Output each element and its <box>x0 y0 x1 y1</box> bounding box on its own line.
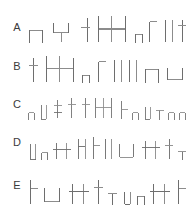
glyph-u-shape-up <box>166 66 187 84</box>
glyph-small-arch-3 <box>168 110 176 122</box>
glyph-strokes <box>94 94 115 122</box>
glyph-vertical-cross-bar <box>93 178 104 206</box>
glyph-u-shape-up <box>118 142 136 162</box>
glyph-strokes <box>114 58 123 84</box>
glyph-tee-left <box>119 98 128 122</box>
glyph-vertical-cross-bar <box>67 94 76 122</box>
glyph-corner-j-shape <box>122 190 133 206</box>
glyph-strokes <box>165 18 174 44</box>
glyph-small-arch-4 <box>179 110 187 122</box>
stimulus-row-d: D <box>0 124 189 164</box>
glyph-table-frame-2 <box>142 138 160 162</box>
glyph-strokes <box>80 16 91 44</box>
glyph-tee-left <box>91 134 101 162</box>
glyph-strokes <box>67 94 76 122</box>
glyph-strokes <box>28 56 39 84</box>
row-label-b: B <box>10 61 24 72</box>
glyph-strokes <box>177 150 187 162</box>
glyph-strokes <box>129 58 138 84</box>
glyph-strokes <box>107 192 118 206</box>
glyph-h-frame-wide <box>45 54 77 84</box>
row-label-a: A <box>10 22 24 33</box>
glyph-arch-n-shape <box>28 28 45 44</box>
glyph-h-frame-wide <box>94 94 115 122</box>
glyph-strokes <box>91 134 101 162</box>
glyph-strokes <box>53 140 71 162</box>
glyph-strokes <box>45 54 77 84</box>
glyph-corner-j-shape <box>28 142 38 162</box>
glyph-double-tee-up <box>52 20 73 44</box>
glyph-twin-verticals-2 <box>129 58 138 84</box>
glyph-strip <box>26 86 189 124</box>
glyph-strokes <box>53 96 62 122</box>
glyph-table-frame <box>69 182 89 206</box>
row-label-e: E <box>10 180 24 191</box>
glyph-strokes <box>97 14 129 44</box>
glyph-tee-up-small <box>107 192 118 206</box>
glyph-strokes <box>28 142 38 162</box>
glyph-strokes <box>81 94 90 122</box>
glyph-strokes <box>148 20 159 44</box>
glyph-strokes <box>150 182 170 206</box>
glyph-strokes <box>137 194 146 206</box>
row-label-c: C <box>10 99 24 110</box>
glyph-small-arch <box>135 32 144 44</box>
glyph-strokes <box>75 136 87 162</box>
glyph-corner-l-top <box>148 20 159 44</box>
glyph-strokes <box>41 150 49 162</box>
glyph-table-frame-2 <box>150 182 170 206</box>
glyph-vertical-cross-bar <box>164 136 174 162</box>
glyph-small-arch <box>137 194 146 206</box>
glyph-strip <box>26 166 189 208</box>
glyph-strokes <box>39 102 48 122</box>
glyph-small-arch <box>41 150 49 162</box>
glyph-strokes <box>178 18 187 44</box>
glyph-strokes <box>135 32 144 44</box>
glyph-strokes <box>43 186 63 206</box>
glyph-strip <box>26 124 189 164</box>
glyph-strokes <box>28 178 39 206</box>
glyph-strokes <box>93 178 104 206</box>
glyph-strokes <box>168 110 176 122</box>
stimulus-row-b: B <box>0 48 189 86</box>
glyph-strokes <box>69 182 89 206</box>
glyph-small-arch <box>82 72 91 84</box>
glyph-corner-j-shape <box>39 102 48 122</box>
glyph-strokes <box>118 142 136 162</box>
glyph-tee-left <box>28 178 39 206</box>
glyph-vertical-cross-bar <box>178 18 187 44</box>
glyph-twin-verticals <box>165 18 174 44</box>
glyph-corner-l-top <box>97 60 108 84</box>
glyph-tee-up-small <box>177 150 187 162</box>
glyph-strokes <box>164 136 174 162</box>
glyph-arch-n-shape <box>144 67 161 84</box>
stimulus-row-c: C <box>0 86 189 124</box>
glyph-strokes <box>52 20 73 44</box>
glyph-strokes <box>142 138 160 162</box>
glyph-strokes <box>97 60 108 84</box>
glyph-strokes <box>28 110 36 122</box>
glyph-strokes <box>179 110 187 122</box>
glyph-strokes <box>143 104 152 122</box>
glyph-tee-up <box>155 108 164 122</box>
glyph-twin-verticals <box>114 58 123 84</box>
glyph-strokes <box>144 67 161 84</box>
glyph-strokes <box>105 136 113 162</box>
glyph-small-arch <box>28 110 36 122</box>
glyph-vertical-double-bar <box>53 96 62 122</box>
glyph-strokes <box>155 108 164 122</box>
glyph-twin-verticals <box>105 136 113 162</box>
glyph-strip <box>26 48 189 86</box>
glyph-strokes <box>176 178 187 206</box>
glyph-strokes <box>28 28 45 44</box>
glyph-corner-j-shape-2 <box>143 104 152 122</box>
glyph-strokes <box>132 110 140 122</box>
glyph-u-shape-up <box>43 186 63 206</box>
glyph-strokes <box>82 72 91 84</box>
glyph-small-arch-2 <box>132 110 140 122</box>
glyph-strokes <box>119 98 128 122</box>
glyph-vertical-with-bar <box>80 16 91 44</box>
stimulus-row-a: A <box>0 8 189 46</box>
glyph-strip <box>26 8 189 46</box>
glyph-strokes <box>122 190 133 206</box>
